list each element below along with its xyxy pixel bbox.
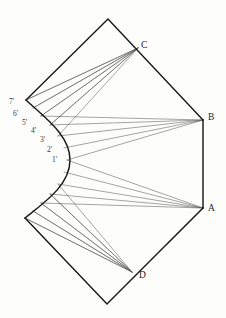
edge-ray-d-0 bbox=[25, 218, 132, 272]
vertex-label-b: B bbox=[208, 113, 214, 123]
ray-to-a-1 bbox=[64, 172, 203, 208]
tick-label-7prime: 7' bbox=[9, 98, 14, 106]
edge-ray-c-3 bbox=[50, 48, 138, 125]
tick-label-5prime: 5' bbox=[22, 119, 27, 127]
construction-diagram bbox=[0, 0, 226, 318]
edge-ray-c-2 bbox=[41, 48, 138, 116]
vertex-label-a: A bbox=[208, 204, 215, 214]
edge-ray-c-4 bbox=[58, 48, 138, 136]
ray-to-a-0 bbox=[67, 160, 203, 208]
tick-label-2prime: 2' bbox=[47, 146, 52, 154]
tick-label-3prime: 3' bbox=[40, 136, 45, 144]
tick-label-1prime: 1' bbox=[52, 156, 57, 164]
edge-ray-d-2 bbox=[41, 203, 132, 272]
outline-upper-edge bbox=[26, 19, 203, 120]
edge-ray-c-0 bbox=[26, 48, 138, 100]
edge-ray-d-4 bbox=[58, 184, 132, 272]
ray-to-b-4 bbox=[67, 120, 203, 160]
tick-label-6prime: 6' bbox=[13, 110, 18, 118]
figure-canvas: CBAD 7'6'5'4'3'2'1' bbox=[0, 0, 226, 318]
tick-label-4prime: 4' bbox=[31, 127, 36, 135]
vertex-label-d: D bbox=[139, 271, 146, 281]
concave-arc bbox=[25, 100, 70, 218]
vertex-label-c: C bbox=[141, 41, 147, 51]
ray-to-b-0 bbox=[41, 116, 203, 120]
ray-to-b-3 bbox=[64, 120, 203, 148]
